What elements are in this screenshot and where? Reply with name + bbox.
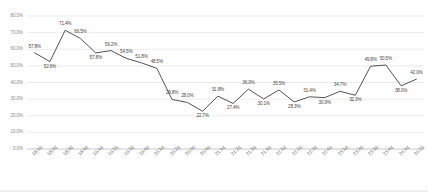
data-point-label: 31.8% bbox=[212, 87, 224, 92]
data-point-label: 54.5% bbox=[120, 49, 132, 54]
data-point-label: 28.0% bbox=[181, 93, 193, 98]
data-point-label: 38.0% bbox=[395, 88, 407, 93]
y-axis-tick-label: 70.0% bbox=[1, 30, 23, 35]
data-point-label: 32.3% bbox=[349, 97, 361, 102]
data-point-label: 57.8% bbox=[28, 44, 40, 49]
y-axis-tick-label: 50.0% bbox=[1, 63, 23, 68]
data-point-label: 22.7% bbox=[196, 113, 208, 118]
data-point-label: 52.6% bbox=[44, 64, 56, 69]
y-axis-tick-label: 40.0% bbox=[1, 80, 23, 85]
y-axis-tick-label: 30.0% bbox=[1, 96, 23, 101]
data-point-label: 50.5% bbox=[380, 56, 392, 61]
data-point-label: 36.0% bbox=[242, 80, 254, 85]
data-point-label: 42.0% bbox=[410, 70, 422, 75]
data-point-label: 30.1% bbox=[258, 101, 270, 106]
y-axis-tick-label: 10.0% bbox=[1, 129, 23, 134]
data-point-label: 49.8% bbox=[364, 57, 376, 62]
chart-plot-area bbox=[0, 0, 428, 195]
y-axis-tick-label: 20.0% bbox=[1, 113, 23, 118]
data-point-label: 30.9% bbox=[319, 100, 331, 105]
gridlines bbox=[27, 16, 424, 149]
data-point-label: 34.7% bbox=[334, 82, 346, 87]
data-point-label: 29.8% bbox=[166, 90, 178, 95]
data-point-label: 71.4% bbox=[59, 21, 71, 26]
data-point-label: 59.2% bbox=[105, 42, 117, 47]
y-axis-tick-label: 60.0% bbox=[1, 46, 23, 51]
data-point-label: 31.4% bbox=[303, 88, 315, 93]
data-point-label: 27.4% bbox=[227, 105, 239, 110]
line-chart: 80.0%70.0%60.0%50.0%40.0%30.0%20.0%10.0%… bbox=[0, 0, 428, 195]
data-point-label: 28.3% bbox=[288, 104, 300, 109]
data-point-label: 66.5% bbox=[74, 29, 86, 34]
data-point-label: 51.8% bbox=[135, 54, 147, 59]
data-point-label: 57.8% bbox=[90, 55, 102, 60]
data-point-label: 35.5% bbox=[273, 81, 285, 86]
y-axis-tick-label: 80.0% bbox=[1, 13, 23, 18]
y-axis-tick-label: 0.0% bbox=[1, 146, 23, 151]
data-point-label: 48.5% bbox=[151, 59, 163, 64]
